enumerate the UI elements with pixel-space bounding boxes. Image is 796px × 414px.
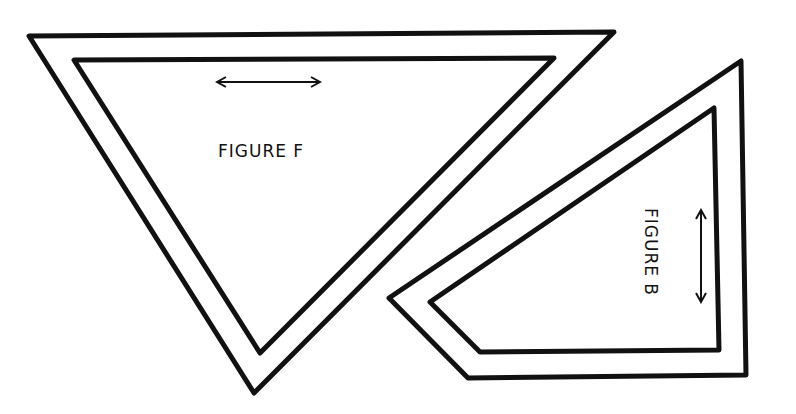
figure-b-outer-cut-line <box>389 61 746 378</box>
figure-f: FIGURE F <box>29 32 614 393</box>
figure-f-inner-seam-line <box>74 58 554 353</box>
figure-b-label: FIGURE B <box>641 208 661 296</box>
pattern-sheet: FIGURE F FIGURE B <box>0 0 796 414</box>
figure-b-inner-seam-line <box>430 108 719 352</box>
figure-b: FIGURE B <box>389 61 746 378</box>
figure-f-label: FIGURE F <box>218 141 304 161</box>
